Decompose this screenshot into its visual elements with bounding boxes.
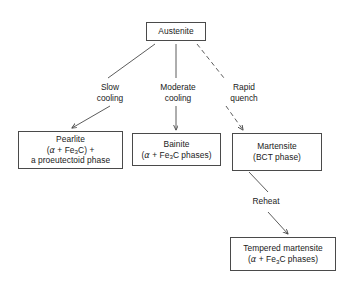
transformation-flow-diagram: Austenite Pearlite (α + Fe3C) + a proeut…	[0, 0, 344, 292]
edge-slow-cooling-arrow	[72, 106, 110, 128]
edge-label-moderate-cooling: Moderate cooling	[150, 82, 206, 103]
edge-label-moderate-cooling-line1: Moderate	[150, 82, 206, 93]
edge-label-reheat-line1: Reheat	[246, 196, 286, 207]
node-austenite[interactable]: Austenite	[146, 22, 206, 41]
edge-rapid-quench	[197, 44, 224, 78]
carbide-tail: C phases)	[173, 150, 212, 160]
node-martensite[interactable]: Martensite (BCT phase)	[232, 133, 322, 171]
edge-label-slow-cooling-line2: cooling	[86, 93, 134, 104]
edge-label-rapid-quench-line1: Rapid	[222, 82, 266, 93]
edge-label-slow-cooling: Slow cooling	[86, 82, 134, 103]
subscript-3: 3	[75, 148, 79, 155]
node-tempered-martensite-title: Tempered martensite	[243, 243, 323, 254]
edge-label-rapid-quench-line2: quench	[222, 93, 266, 104]
node-tempered-martensite[interactable]: Tempered martensite (α + Fe3C phases)	[230, 237, 336, 271]
edge-label-slow-cooling-line1: Slow	[86, 82, 134, 93]
fe-text: + Fe	[55, 145, 75, 155]
node-bainite-title: Bainite	[164, 139, 190, 150]
carbide-tail: C phases)	[279, 254, 318, 264]
edge-label-moderate-cooling-line2: cooling	[150, 93, 206, 104]
edge-reheat	[249, 172, 268, 192]
carbide-tail: C) +	[78, 145, 94, 155]
edge-label-reheat: Reheat	[246, 196, 286, 207]
node-pearlite-proeutectoid: a proeutectoid phase	[31, 155, 110, 166]
node-martensite-title: Martensite	[257, 141, 297, 152]
edge-rapid-quench-arrow	[226, 106, 243, 130]
edge-label-rapid-quench: Rapid quench	[222, 82, 266, 103]
node-tempered-martensite-composition: (α + Fe3C phases)	[248, 254, 318, 265]
node-pearlite[interactable]: Pearlite (α + Fe3C) + a proeutectoid pha…	[18, 131, 123, 169]
edge-slow-cooling	[108, 44, 155, 78]
node-bainite-composition: (α + Fe3C phases)	[141, 150, 211, 161]
edge-reheat-arrow	[268, 212, 288, 234]
node-martensite-structure: (BCT phase)	[253, 152, 301, 163]
fe-text: + Fe	[150, 150, 170, 160]
fe-text: + Fe	[256, 254, 276, 264]
subscript-3: 3	[276, 258, 280, 265]
node-austenite-label: Austenite	[158, 26, 193, 37]
node-pearlite-title: Pearlite	[56, 134, 85, 145]
node-bainite[interactable]: Bainite (α + Fe3C phases)	[132, 133, 221, 166]
node-pearlite-composition: (α + Fe3C) +	[47, 145, 95, 156]
subscript-3: 3	[169, 153, 173, 160]
